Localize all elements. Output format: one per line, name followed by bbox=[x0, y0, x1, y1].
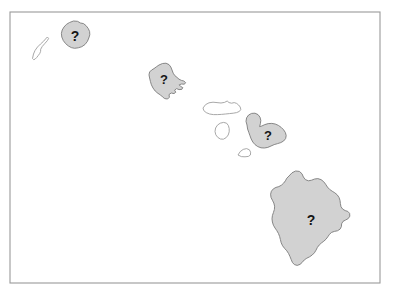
island-molokai[interactable] bbox=[203, 101, 241, 115]
marker-oahu: ? bbox=[160, 72, 168, 87]
marker-maui: ? bbox=[264, 128, 272, 143]
marker-kauai: ? bbox=[71, 28, 80, 44]
island-lanai[interactable] bbox=[215, 122, 229, 139]
map-canvas: ???? bbox=[0, 0, 395, 299]
map-border-frame bbox=[10, 12, 380, 283]
hawaii-island-map: ???? bbox=[0, 0, 395, 299]
marker-hawaii: ? bbox=[307, 212, 316, 228]
